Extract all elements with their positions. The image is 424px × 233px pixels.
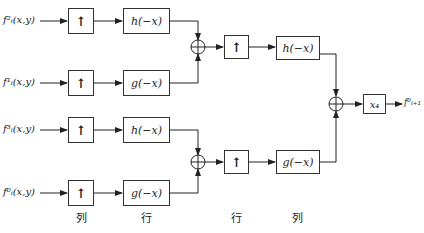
filter-h-row3: h(−x) bbox=[123, 117, 170, 143]
adder-icon bbox=[191, 40, 205, 54]
upsample-block: ↑ bbox=[68, 180, 94, 206]
filter-h-column: h(−x) bbox=[276, 36, 320, 60]
up-arrow-icon: ↑ bbox=[76, 76, 87, 91]
filter-g-row2: g(−x) bbox=[123, 70, 170, 96]
stage-label-column: 列 bbox=[292, 213, 303, 224]
upsample-block: ↑ bbox=[68, 117, 94, 143]
adder-icon bbox=[329, 97, 343, 111]
upsample-block: ↑ bbox=[224, 150, 249, 174]
input-label-f3: f³ᵢ(x,y) bbox=[3, 124, 35, 134]
filter-h-row1: h(−x) bbox=[123, 8, 170, 34]
up-arrow-icon: ↑ bbox=[76, 186, 87, 201]
input-label-f0: f⁰ᵢ(x,y) bbox=[3, 187, 35, 197]
up-arrow-icon: ↑ bbox=[76, 14, 87, 29]
input-label-f1: f¹ᵢ(x,y) bbox=[3, 77, 35, 87]
upsample-block: ↑ bbox=[224, 35, 249, 59]
gain-block: x₄ bbox=[363, 94, 386, 114]
up-arrow-icon: ↑ bbox=[231, 155, 242, 170]
stage-label-row: 行 bbox=[231, 213, 242, 224]
output-label: f⁰ᵢ₊₁ bbox=[404, 98, 421, 107]
upsample-block: ↑ bbox=[68, 8, 94, 34]
filter-g-row4: g(−x) bbox=[123, 180, 170, 206]
up-arrow-icon: ↑ bbox=[76, 123, 87, 138]
upsample-block: ↑ bbox=[68, 70, 94, 96]
stage-label-row: 行 bbox=[141, 213, 152, 224]
stage-label-column: 列 bbox=[76, 213, 87, 224]
up-arrow-icon: ↑ bbox=[231, 40, 242, 55]
adder-icon bbox=[191, 155, 205, 169]
input-label-f2: f²ᵢ(x,y) bbox=[3, 15, 35, 25]
connection-lines bbox=[0, 0, 424, 233]
filter-g-column: g(−x) bbox=[276, 150, 320, 174]
